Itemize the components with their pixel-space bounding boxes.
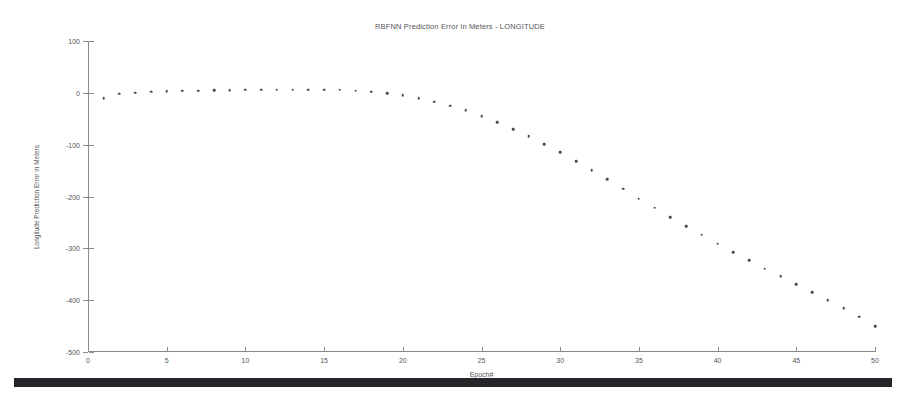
data-point [732, 251, 735, 254]
data-point [685, 225, 688, 228]
data-point [669, 216, 672, 219]
data-point [512, 128, 515, 131]
data-point [165, 90, 168, 93]
data-point [402, 94, 405, 97]
data-point [181, 89, 184, 92]
data-point [480, 115, 483, 118]
y-tick-mark [83, 41, 88, 42]
x-tick-mark [875, 347, 876, 352]
x-tick-mark [167, 347, 168, 352]
data-point [244, 88, 247, 91]
x-tick-label: 0 [86, 357, 90, 364]
x-tick-label: 5 [165, 357, 169, 364]
x-tick-label: 10 [241, 357, 249, 364]
data-point [386, 92, 389, 95]
y-tick-mark-inner [89, 248, 94, 249]
chart-title: RBFNN Prediction Error in Meters - LONGI… [0, 22, 920, 31]
y-tick-mark [83, 352, 88, 353]
y-tick-label: -100 [66, 141, 80, 148]
plot-area: 1000-100-200-300-400-500 051015202530354… [88, 41, 875, 352]
x-tick-mark [88, 347, 89, 352]
data-point [291, 88, 294, 91]
x-tick-label: 50 [871, 357, 879, 364]
x-tick-mark [560, 347, 561, 352]
data-point [433, 100, 436, 103]
data-point [307, 88, 310, 91]
data-point [716, 242, 719, 245]
y-tick-mark [83, 197, 88, 198]
data-point [874, 325, 877, 328]
x-tick-mark [639, 347, 640, 352]
y-tick-mark-inner [89, 41, 94, 42]
y-tick-mark-inner [89, 145, 94, 146]
data-point [795, 283, 798, 286]
data-point [811, 291, 814, 294]
y-tick-mark-inner [89, 93, 94, 94]
data-point [764, 267, 767, 270]
y-tick-label: -200 [66, 193, 80, 200]
y-tick-label: -500 [66, 349, 80, 356]
y-tick-mark [83, 93, 88, 94]
x-tick-label: 15 [320, 357, 328, 364]
data-point [543, 143, 546, 146]
data-point [701, 234, 704, 237]
scan-artifact-bar [14, 378, 892, 387]
x-tick-label: 45 [792, 357, 800, 364]
data-point [653, 207, 656, 210]
data-point [323, 88, 326, 91]
y-tick-mark [83, 300, 88, 301]
y-tick-mark [83, 248, 88, 249]
chart-figure: RBFNN Prediction Error in Meters - LONGI… [0, 0, 920, 397]
data-point [118, 93, 121, 96]
data-point [622, 187, 625, 190]
data-point [150, 90, 153, 93]
data-point [354, 89, 357, 92]
x-tick-label: 35 [635, 357, 643, 364]
data-point [464, 109, 467, 112]
data-point [575, 160, 578, 163]
data-point [370, 90, 373, 93]
x-tick-mark [324, 347, 325, 352]
data-point [779, 275, 782, 278]
data-point [858, 315, 861, 318]
y-tick-mark-inner [89, 352, 94, 353]
data-point [134, 92, 137, 95]
y-tick-label: 0 [76, 89, 80, 96]
y-axis-title: Longitude Prediction Error in Meters [33, 144, 40, 248]
data-point [449, 104, 452, 107]
y-tick-label: -300 [66, 245, 80, 252]
data-point [228, 89, 231, 92]
x-tick-label: 25 [478, 357, 486, 364]
data-point [826, 299, 829, 302]
data-point [638, 197, 641, 200]
x-tick-mark [796, 347, 797, 352]
data-point [197, 89, 200, 92]
data-point [496, 121, 499, 124]
x-tick-mark [245, 347, 246, 352]
x-tick-label: 30 [556, 357, 564, 364]
y-tick-mark-inner [89, 300, 94, 301]
data-point [417, 97, 420, 100]
data-point [527, 135, 530, 138]
y-tick-mark-inner [89, 197, 94, 198]
x-axis-title: Epoch# [470, 371, 494, 378]
data-point [606, 178, 609, 181]
data-point [559, 151, 562, 154]
y-tick-mark [83, 145, 88, 146]
data-point [102, 97, 105, 100]
x-tick-mark [403, 347, 404, 352]
y-tick-label: 100 [68, 38, 80, 45]
x-tick-mark [718, 347, 719, 352]
data-point [213, 89, 216, 92]
data-point [590, 169, 593, 172]
data-point [842, 307, 845, 310]
data-point [748, 259, 751, 262]
x-tick-label: 40 [714, 357, 722, 364]
data-point [339, 88, 342, 91]
x-tick-label: 20 [399, 357, 407, 364]
x-tick-mark [482, 347, 483, 352]
y-tick-label: -400 [66, 297, 80, 304]
data-point [276, 88, 279, 91]
data-point [260, 88, 263, 91]
